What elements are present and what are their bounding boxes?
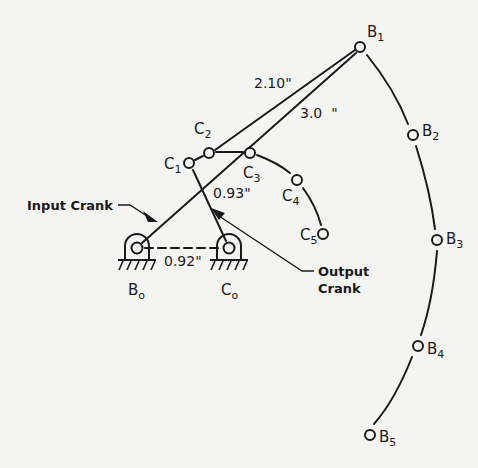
label-c4: C4 — [282, 187, 299, 208]
b-locus-arc — [367, 55, 437, 424]
dimension-output-crank: 0.93" — [213, 185, 251, 201]
joint-b2 — [408, 130, 418, 140]
label-b4: B4 — [427, 340, 444, 361]
input-crank-leader — [118, 205, 158, 222]
joint-b5 — [365, 430, 375, 440]
ground-pivot-co — [210, 234, 248, 270]
label-b3: B3 — [446, 230, 463, 251]
diagram-canvas: B1 B2 B3 B4 B5 C1 C2 C3 C4 C5 Bo Co 2.10… — [0, 0, 478, 468]
joint-b1 — [355, 42, 365, 52]
label-c3: C3 — [243, 164, 260, 185]
joint-c2 — [204, 148, 214, 158]
joint-c1 — [184, 158, 194, 168]
output-crank-link — [193, 170, 226, 241]
label-b2: B2 — [422, 122, 439, 143]
callout-output-crank-line2: Crank — [318, 281, 361, 296]
c1-c2-link — [195, 156, 203, 160]
label-b1: B1 — [367, 23, 384, 44]
dimension-coupler: 2.10" — [254, 75, 292, 91]
callout-input-crank: Input Crank — [27, 198, 113, 213]
label-c5: C5 — [300, 226, 317, 247]
callout-output-crank-line1: Output — [318, 264, 369, 279]
joint-b4 — [413, 341, 423, 351]
label-bo: Bo — [128, 281, 145, 302]
coupler-link — [215, 50, 355, 150]
label-b5: B5 — [379, 428, 396, 449]
label-co: Co — [221, 281, 238, 302]
dimension-input-link: 3.0 " — [300, 105, 338, 121]
ground-pivot-bo — [118, 234, 156, 270]
arrow-icon — [143, 211, 158, 222]
linkage-diagram: B1 B2 B3 B4 B5 C1 C2 C3 C4 C5 Bo Co 2.10… — [0, 0, 478, 468]
label-c1: C1 — [164, 155, 181, 176]
joint-c4 — [292, 175, 302, 185]
joint-c5 — [318, 229, 328, 239]
label-c2: C2 — [194, 120, 211, 141]
output-crank-leader — [211, 208, 314, 271]
joint-c3 — [245, 148, 255, 158]
joint-b3 — [432, 235, 442, 245]
dimension-ground: 0.92" — [164, 253, 202, 269]
